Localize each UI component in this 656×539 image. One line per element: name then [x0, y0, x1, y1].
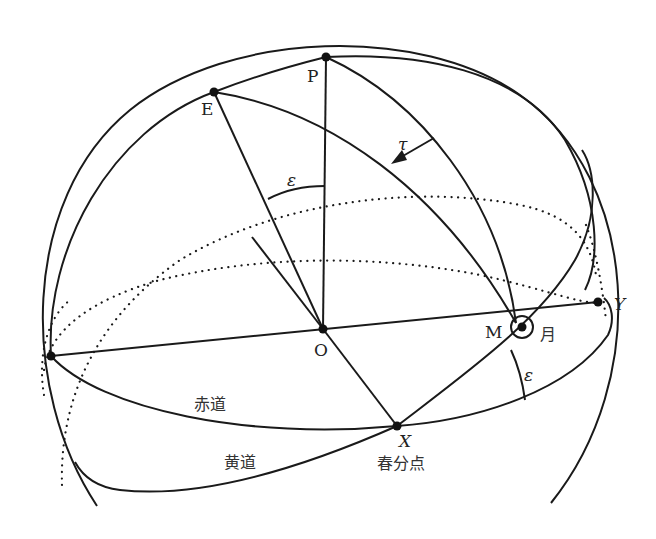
label-P: P — [307, 68, 318, 85]
point-X — [393, 422, 402, 431]
hour-circle-arc — [326, 57, 516, 323]
epsilon-angle-arc-bottom — [511, 350, 525, 400]
equinox-line — [323, 329, 397, 426]
label-epsilon-bottom: ε — [524, 367, 533, 384]
point-O — [319, 325, 328, 334]
label-vernal-equinox: 春分点 — [377, 456, 425, 472]
ecliptic-pole-arc — [214, 92, 516, 323]
label-Y: Y — [614, 296, 625, 313]
label-O: O — [314, 342, 328, 359]
label-X: X — [399, 433, 411, 450]
epsilon-angle-arc-top — [268, 186, 325, 199]
point-E — [210, 88, 219, 97]
point-P — [322, 53, 331, 62]
point-M — [518, 323, 527, 332]
label-equator: 赤道 — [194, 397, 226, 413]
point-W — [47, 352, 56, 361]
celestial-sphere-diagram: P E O X Y M τ ε ε 月 赤道 黄道 春分点 — [0, 0, 656, 539]
label-E: E — [201, 101, 213, 118]
left-dotted-arc — [42, 300, 70, 395]
outer-sphere — [43, 46, 619, 506]
label-M: M — [485, 324, 502, 341]
diagram-canvas — [0, 0, 656, 539]
ecliptic-back-dotted — [62, 197, 596, 485]
label-ecliptic: 黄道 — [224, 455, 256, 471]
label-moon: 月 — [540, 327, 556, 343]
polar-axis — [323, 57, 326, 329]
label-tau: τ — [398, 136, 407, 153]
label-epsilon-top: ε — [287, 172, 296, 189]
point-Y — [594, 298, 603, 307]
